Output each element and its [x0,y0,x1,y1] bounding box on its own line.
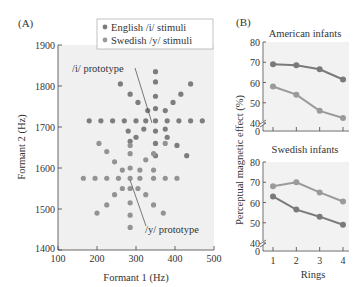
data-point [96,141,101,146]
legend: English /i/ stimuli Swedish /y/ stimuli [97,19,213,49]
data-point [293,207,299,213]
data-point [98,118,103,123]
data-point [317,189,323,195]
data-point [200,118,205,123]
data-point [143,192,148,197]
data-point [151,167,156,172]
data-point [137,176,142,181]
data-point [340,198,346,204]
y-tick-label: 80 [250,37,260,48]
data-point [165,135,170,140]
data-point [153,129,158,134]
swedish-infants-title: Swedish infants [272,144,339,155]
data-point [163,108,168,113]
data-point [120,167,125,172]
data-point [170,100,175,105]
panel-a-plot-area [58,45,214,250]
data-point [153,118,158,123]
x-tick-label: 400 [168,253,183,264]
data-point [174,176,179,181]
panel-a-ylabel: Formant 2 (Hz) [16,114,28,180]
data-point [151,202,156,207]
data-point [161,211,166,216]
data-point [92,176,97,181]
panel-a-label: (A) [18,17,34,30]
data-point [163,126,168,131]
y-tick-label: 60 [250,78,260,89]
swedish-infants-chart: 807060504001234 [250,157,349,266]
y-tick-label: 0 [255,246,260,257]
data-point [110,118,115,123]
data-point [293,179,299,185]
data-point [122,118,127,123]
data-point [270,84,276,90]
data-point [137,167,142,172]
data-point [87,118,92,123]
data-point [128,92,133,97]
data-point [104,202,109,207]
legend-swedish: Swedish /y/ stimuli [111,35,192,46]
plot-area [264,162,349,250]
y-tick-label: 60 [250,198,260,209]
data-point [112,192,117,197]
data-point [104,149,109,154]
legend-marker-swedish [103,38,108,43]
data-point [270,193,276,199]
data-point [317,214,323,220]
data-point [143,157,148,162]
data-point [188,81,193,86]
data-point [81,176,86,181]
y-prototype-label: /y/ prototype [145,224,199,235]
data-point [118,81,123,86]
x-tick-label: 100 [51,253,66,264]
legend-english: English /i/ stimuli [111,22,186,33]
y-tick-label: 1800 [35,81,55,92]
data-point [340,115,346,121]
panel-b-label: (B) [236,16,251,29]
data-point [112,159,117,164]
x-tick-label: 300 [129,253,144,264]
y-tick-label: 1900 [35,40,55,51]
y-tick-label: 0 [255,126,260,137]
american-infants-chart: 80706050400 [250,37,349,137]
data-point [143,118,148,123]
legend-marker-english [103,25,108,30]
data-point [163,141,168,146]
data-point [184,153,189,158]
data-point [340,222,346,228]
data-point [153,69,158,74]
data-point [188,118,193,123]
data-point [128,200,133,205]
data-point [133,135,138,140]
data-point [163,176,168,181]
panel-b-xlabel: Rings [301,269,326,280]
data-point [165,118,170,123]
y-tick-label: 70 [250,177,260,188]
panel-b-ylabel: Perceptual magnetic effect (%) [234,94,246,225]
data-point [128,165,133,170]
data-point [133,118,138,123]
data-point [126,129,131,134]
data-point [151,176,156,181]
data-point [153,106,158,111]
y-tick-label: 1700 [35,122,55,133]
data-point [293,62,299,68]
data-point [270,61,276,67]
data-point [153,141,158,146]
data-point [128,225,133,230]
x-tick-label: 500 [207,253,222,264]
x-tick-label: 2 [294,255,299,266]
data-point [178,92,183,97]
data-point [270,183,276,189]
data-point [104,176,109,181]
y-tick-label: 1500 [35,204,55,215]
i-prototype-label: /i/ prototype [72,63,124,74]
panel-a-xlabel: Formant 1 (Hz) [103,272,169,284]
data-point [153,79,158,84]
y-tick-label: 80 [250,157,260,168]
y-tick-label: 50 [250,218,260,229]
y-tick-label: 1600 [35,163,55,174]
data-point [141,126,146,131]
x-tick-label: 4 [341,255,346,266]
data-point [340,76,346,82]
